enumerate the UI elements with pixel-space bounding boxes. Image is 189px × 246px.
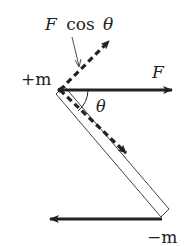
plus-m-label: +m (21, 69, 51, 89)
fcos-label: F cos θ (44, 14, 113, 34)
pivot-point (58, 88, 63, 93)
dipole-rod (56, 86, 169, 217)
force-F-label: F (151, 62, 165, 82)
component-arrow-along-rod (60, 90, 126, 153)
theta-label: θ (96, 97, 106, 116)
label-pointer (72, 37, 81, 67)
dipole-force-diagram: F cos θ +m F θ −m (0, 0, 189, 246)
component-arrow-perpendicular (60, 41, 109, 90)
minus-m-label: −m (147, 227, 177, 246)
